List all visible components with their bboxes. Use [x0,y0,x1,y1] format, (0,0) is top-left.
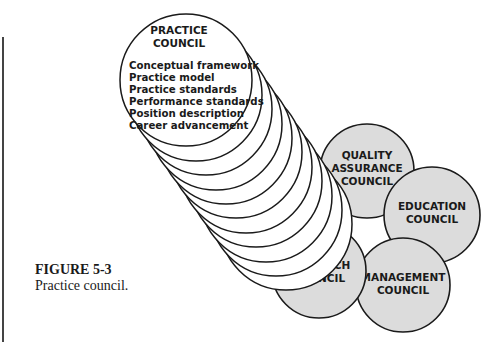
qa-label-3: COUNCIL [341,175,394,187]
practice-item: Practice model [129,72,215,83]
practice-title-2: COUNCIL [153,37,206,49]
management-label-1: MANAGEMENT [361,271,447,283]
figure-caption-text: Practice council. [35,278,128,294]
management-council: MANAGEMENT COUNCIL [356,238,450,332]
council-diagram: QUALITY ASSURANCE COUNCIL EDUCATION COUN… [0,0,502,347]
practice-item: Conceptual framework [129,60,259,71]
figure-caption: FIGURE 5-3 Practice council. [35,262,128,294]
practice-title-1: PRACTICE [150,24,208,36]
qa-label-2: ASSURANCE [331,162,402,174]
qa-label-1: QUALITY [342,149,393,161]
practice-item: Position description [129,108,244,119]
figure-number: FIGURE 5-3 [35,262,128,278]
practice-item: Practice standards [129,84,237,95]
education-label-2: COUNCIL [406,213,459,225]
practice-council-stack [120,14,352,290]
practice-item: Performance standards [129,96,264,107]
education-label-1: EDUCATION [398,200,466,212]
practice-item: Career advancement [129,120,248,131]
management-label-2: COUNCIL [377,284,430,296]
